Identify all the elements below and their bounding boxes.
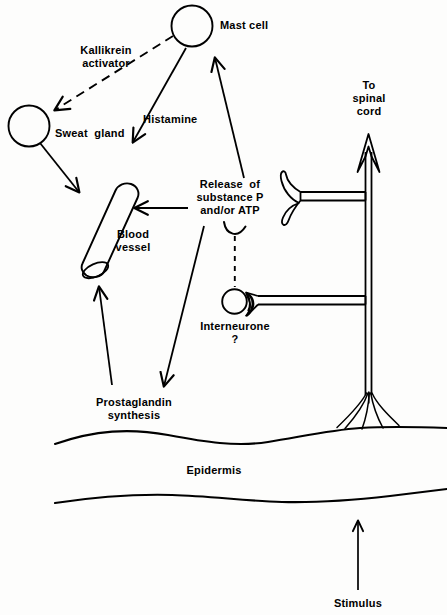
- arrow-prostaglandin-to-vessel: [99, 287, 112, 385]
- label-epidermis: Epidermis: [174, 464, 254, 477]
- label-interneurone: Interneurone ?: [192, 320, 278, 346]
- nerve-trunk-axon: [358, 134, 380, 395]
- label-release-substance: Release of substance P and/or ATP: [182, 178, 278, 217]
- arrow-sweat-gland-to-vessel: [40, 143, 79, 192]
- epidermis-lower-line: [55, 489, 447, 503]
- epidermis-upper-line: [55, 427, 447, 444]
- nerve-branch-upper: [281, 171, 366, 225]
- label-to-spinal-cord: To spinal cord: [335, 79, 403, 118]
- label-sweat-gland: Sweat gland: [55, 127, 125, 140]
- arrow-release-to-mast-cell: [215, 58, 244, 178]
- label-prostaglandin-synthesis: Prostaglandin synthesis: [80, 396, 188, 422]
- figure-canvas: Mast cell Kallikrein activator Sweat gla…: [0, 0, 447, 615]
- label-mast-cell: Mast cell: [220, 19, 268, 32]
- nerve-branch-lower: [258, 296, 366, 305]
- arrow-release-to-prostaglandin: [164, 226, 204, 386]
- interneurone-body: [222, 289, 258, 316]
- label-blood-vessel: Blood vessel: [104, 228, 162, 254]
- label-stimulus: Stimulus: [322, 597, 394, 610]
- label-kallikrein-activator: Kallikrein activator: [46, 44, 166, 70]
- label-histamine: Histamine: [143, 113, 197, 126]
- mast-cell-body: [172, 6, 213, 47]
- free-nerve-endings: [337, 392, 399, 429]
- receptor-terminal-claw: [281, 171, 301, 225]
- release-terminal-cup: [224, 222, 246, 234]
- sweat-gland-body: [9, 106, 50, 147]
- spinal-cord-arrowhead: [358, 134, 380, 172]
